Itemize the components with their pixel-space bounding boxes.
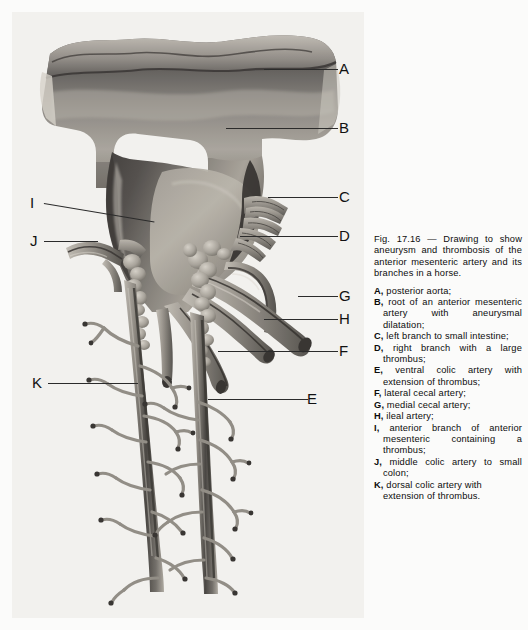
caption-item-text: posterior aorta; xyxy=(384,286,452,296)
caption-item-text: ventral colic artery with extension of t… xyxy=(383,365,522,386)
caption-key-list: A, posterior aorta;B, root of an anterio… xyxy=(374,286,522,503)
caption-item-key: B, xyxy=(374,297,384,307)
label-b: B xyxy=(339,120,349,135)
leader-line-c xyxy=(268,197,338,198)
caption-item: F, lateral cecal artery; xyxy=(374,388,522,399)
caption-item-key: F, xyxy=(374,388,382,398)
caption-item-text: middle colic artery to small colon; xyxy=(382,457,522,478)
caption-item: G, medial cecal artery; xyxy=(374,400,522,411)
caption-item-key: H, xyxy=(374,411,384,421)
label-d: D xyxy=(339,228,350,243)
caption-item-key: K, xyxy=(374,480,384,490)
label-j: J xyxy=(30,233,38,248)
caption-dash: — xyxy=(427,234,436,244)
label-c: C xyxy=(339,189,350,204)
caption-item-text: medial cecal artery; xyxy=(384,400,470,410)
caption-item-text: dorsal colic artery with extension of th… xyxy=(383,480,482,501)
leader-line-f xyxy=(218,351,338,352)
leader-line-j xyxy=(44,241,98,242)
label-k: K xyxy=(32,375,42,390)
leader-line-b xyxy=(226,128,338,129)
label-f: F xyxy=(339,343,348,358)
caption-item-key: G, xyxy=(374,400,384,410)
figure-caption: Fig. 17.16 — Drawing to show aneurysm an… xyxy=(374,234,522,502)
caption-item-key: J, xyxy=(374,457,382,467)
label-g: G xyxy=(339,288,351,303)
caption-item-text: root of an anterior mesenteric artery wi… xyxy=(383,297,522,330)
label-h: H xyxy=(339,311,350,326)
caption-item: H, ileal artery; xyxy=(374,411,522,422)
caption-item-text: left branch to small intestine; xyxy=(384,331,509,341)
caption-item-text: right branch with a large thrombus; xyxy=(383,343,522,364)
caption-item: B, root of an anterior mesenteric artery… xyxy=(374,297,522,331)
caption-item: J, middle colic artery to small colon; xyxy=(374,457,522,480)
label-a: A xyxy=(339,61,349,76)
leader-line-h xyxy=(264,319,338,320)
caption-item: C, left branch to small intestine; xyxy=(374,331,522,342)
figure-page: A B C D G H F E I J K Fig. 17.16 — Drawi… xyxy=(0,0,528,630)
caption-fig-number: Fig. 17.16 xyxy=(374,234,421,244)
caption-item: K, dorsal colic artery with extension of… xyxy=(374,480,522,503)
caption-item-text: lateral cecal artery; xyxy=(382,388,466,398)
aorta-mesenteric-artery-drawing xyxy=(12,12,364,618)
leader-line-k xyxy=(48,383,138,384)
caption-heading: Fig. 17.16 — Drawing to show aneurysm an… xyxy=(374,234,522,280)
label-i: I xyxy=(30,195,34,210)
caption-item: A, posterior aorta; xyxy=(374,286,522,297)
leader-line-g xyxy=(298,296,338,297)
leader-line-d xyxy=(240,236,338,237)
caption-item-key: D, xyxy=(374,343,384,353)
caption-item-key: E, xyxy=(374,365,383,375)
anatomical-illustration xyxy=(12,12,364,618)
leader-line-a xyxy=(264,69,338,70)
label-e: E xyxy=(307,391,317,406)
caption-item-key: A, xyxy=(374,286,384,296)
leader-line-e xyxy=(208,399,308,400)
caption-item: D, right branch with a large thrombus; xyxy=(374,343,522,366)
caption-item-text: ileal artery; xyxy=(384,411,434,421)
caption-item: E, ventral colic artery with extension o… xyxy=(374,365,522,388)
caption-item: I, anterior branch of anterior mesenteri… xyxy=(374,423,522,457)
caption-item-text: anterior branch of anterior mesenteric c… xyxy=(379,423,522,456)
caption-item-key: C, xyxy=(374,331,384,341)
